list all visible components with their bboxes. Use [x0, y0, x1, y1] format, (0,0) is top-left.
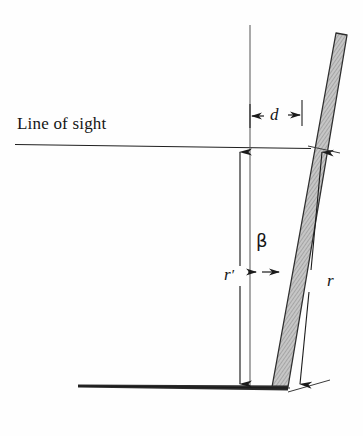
radius-r-label: r [327, 272, 334, 289]
diagram-vector-layer [0, 0, 363, 436]
line-of-sight-label: Line of sight [17, 115, 106, 132]
offset-d-label: d [270, 106, 279, 123]
hatched-tilted-rod [272, 33, 347, 387]
radius-r-prime-label: r′ [224, 266, 234, 283]
line-of-sight-ray [15, 145, 311, 149]
radius-r-prime-symbol: r [224, 265, 231, 284]
angle-beta-label: β [256, 232, 268, 250]
diagram-canvas: Line of sight d β r′ r [0, 0, 363, 436]
ground-surface-wedge [78, 380, 330, 392]
prime-mark: ′ [231, 267, 234, 283]
